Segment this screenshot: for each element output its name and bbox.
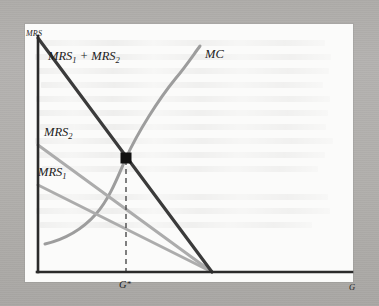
x-axis-label: G bbox=[349, 283, 355, 292]
figure-root: MRS G MRS1 + MRS2 MRS2 MRS1 MC G* bbox=[0, 0, 379, 306]
gstar-axis-label: G* bbox=[119, 280, 131, 291]
mrs-sum-curve-label: MRS1 + MRS2 bbox=[48, 50, 120, 63]
mc-curve bbox=[45, 46, 200, 244]
mrs2-curve bbox=[38, 145, 212, 272]
mrs-sum-label-plus: + MRS bbox=[77, 49, 116, 63]
mrs2-label-text: MRS bbox=[44, 125, 68, 139]
mrs1-curve bbox=[38, 185, 212, 272]
gstar-label-text: G bbox=[119, 279, 127, 290]
mrs-sum-label-sub-2: 2 bbox=[116, 55, 120, 65]
mrs2-label-sub: 2 bbox=[68, 131, 72, 141]
mrs-sum-label-text: MRS bbox=[48, 49, 72, 63]
mrs-sum-label-sub-1: 1 bbox=[72, 55, 76, 65]
chart-plot-svg bbox=[0, 0, 379, 306]
equilibrium-marker bbox=[121, 153, 132, 164]
mc-curve-label: MC bbox=[205, 48, 224, 61]
gstar-label-asterisk: * bbox=[127, 279, 132, 289]
y-axis-label: MRS bbox=[26, 30, 42, 38]
mrs1-label-sub: 1 bbox=[62, 171, 66, 181]
mrs2-curve-label: MRS2 bbox=[44, 126, 73, 139]
mrs1-label-text: MRS bbox=[38, 165, 62, 179]
mrs1-curve-label: MRS1 bbox=[38, 166, 67, 179]
